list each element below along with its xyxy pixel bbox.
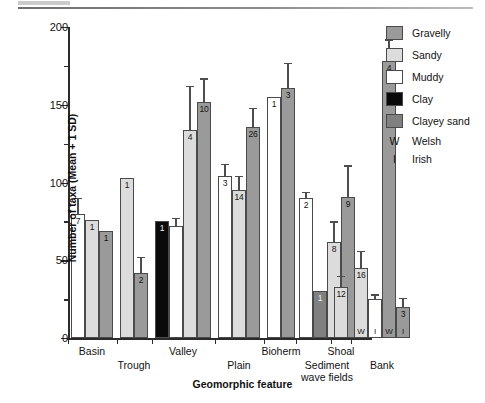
error-bar (238, 176, 239, 190)
y-tick-label: 50 (8, 254, 68, 266)
bar-sample-size: 26 (247, 130, 259, 139)
x-tick (351, 338, 352, 344)
bar-sample-size: 1 (121, 181, 133, 190)
legend-swatch (386, 48, 403, 62)
legend-code-label: Welsh (412, 135, 441, 147)
x-axis-title: Geomorphic feature (0, 378, 485, 390)
x-category-label: Shoal (328, 346, 355, 358)
bar: 2 (134, 273, 148, 338)
error-bar (189, 86, 190, 130)
bar-nation-code: W (355, 328, 367, 336)
bar: 3I (396, 307, 410, 338)
bar: 15 (169, 226, 183, 338)
x-category-label: Trough (118, 360, 151, 372)
legend-swatch (386, 92, 403, 106)
plot-area: 050100150200 71112115410314261321891216W… (68, 27, 368, 338)
legend-swatch (386, 114, 403, 128)
bar-sample-size: 3 (397, 310, 409, 319)
bar: 1 (313, 291, 327, 338)
bar: 2 (299, 198, 313, 338)
x-tick (117, 338, 118, 344)
legend-item: Clayey sand (386, 110, 482, 132)
bar-sample-size: 12 (335, 290, 347, 299)
legend-label: Sandy (412, 49, 442, 61)
bar-sample-size: 10 (198, 105, 210, 114)
error-bar (140, 257, 141, 273)
bar-sample-size: 3 (282, 91, 294, 100)
bar: 1 (120, 178, 134, 338)
bar: 16W (354, 268, 368, 338)
legend-item: Gravelly (386, 22, 482, 44)
bar-nation-code: I (397, 328, 409, 336)
bar: 10 (197, 102, 211, 338)
legend-code-letter: I (386, 153, 403, 165)
bar: 26 (246, 127, 260, 338)
legend-code-item: WWelsh (386, 132, 482, 150)
error-bar (360, 251, 361, 268)
x-tick (296, 338, 297, 344)
x-category-label: Plain (227, 360, 250, 372)
legend-label: Muddy (412, 71, 444, 83)
bar: 4 (183, 130, 197, 338)
x-category-label: Valley (169, 346, 197, 358)
bar-sample-size: 1 (268, 100, 280, 109)
bar-sample-size: 9 (342, 200, 354, 209)
bar-sample-size: 1 (86, 223, 98, 232)
x-category-label: Bank (370, 360, 394, 372)
error-bar (224, 164, 225, 176)
legend: GravellySandyMuddyClayClayey sandWWelshI… (386, 22, 482, 168)
bar-sample-size: 1 (156, 224, 168, 233)
legend-item: Muddy (386, 66, 482, 88)
y-tick-label: 150 (8, 99, 68, 111)
bar: 14 (232, 190, 246, 338)
x-category-label: Basin (79, 346, 105, 358)
y-axis-title: Number of taxa (Mean + 1 SD) (66, 38, 78, 338)
bar-sample-size: 14 (233, 193, 245, 202)
legend-item: Clay (386, 88, 482, 110)
x-axis-line (67, 338, 372, 340)
error-bar (175, 218, 176, 226)
x-tick (152, 338, 153, 344)
bar: 1 (155, 221, 169, 338)
legend-swatch (386, 26, 403, 40)
bar: 1 (267, 97, 281, 338)
legend-item: Sandy (386, 44, 482, 66)
bar-sample-size: 1 (100, 234, 112, 243)
x-tick (331, 338, 332, 344)
error-bar (340, 276, 341, 287)
y-tick-label: 200 (8, 21, 68, 33)
bar-sample-size: 16 (355, 271, 367, 280)
legend-code-letter: W (386, 135, 403, 147)
error-bar (287, 63, 288, 88)
page-rule (18, 7, 473, 9)
error-bar (402, 298, 403, 307)
bar-nation-code: W (383, 328, 395, 336)
x-category-label: Bioherm (261, 346, 300, 358)
bar-sample-size: 8 (328, 245, 340, 254)
bar: 20I (368, 299, 382, 338)
bar-sample-size: 2 (300, 201, 312, 210)
error-bar (305, 192, 306, 198)
legend-label: Clayey sand (412, 115, 470, 127)
error-bar (347, 165, 348, 196)
x-tick (68, 338, 69, 344)
bar-sample-size: 2 (135, 276, 147, 285)
x-tick (264, 338, 265, 344)
error-bar (252, 108, 253, 127)
error-bar (374, 294, 375, 299)
bar: 3 (281, 88, 295, 338)
bar: 1 (99, 231, 113, 338)
legend-code-item: IIrish (386, 150, 482, 168)
x-tick (215, 338, 216, 344)
y-tick-label: 100 (8, 177, 68, 189)
bar-sample-size: 4 (184, 133, 196, 142)
legend-label: Clay (412, 93, 433, 105)
bar-sample-size: 1 (314, 294, 326, 303)
bar-nation-code: I (369, 328, 381, 336)
y-tick-label: 0 (8, 332, 68, 344)
bar: 12 (334, 287, 348, 338)
legend-swatch (386, 70, 403, 84)
bar: 1 (85, 220, 99, 338)
bar: 3 (218, 176, 232, 338)
legend-label: Gravelly (412, 27, 451, 39)
